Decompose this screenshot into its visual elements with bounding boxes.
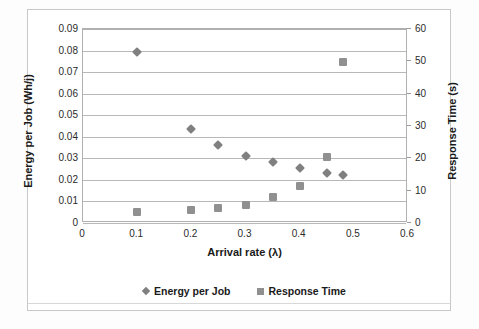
data-point xyxy=(339,58,347,66)
data-point xyxy=(338,170,348,180)
y-axis-right-tickmark xyxy=(407,125,411,126)
data-point xyxy=(269,193,277,201)
y-axis-left-tick-label: 0.03 xyxy=(59,152,78,163)
legend-diamond-icon xyxy=(142,287,150,295)
x-axis-tick-label: 0.3 xyxy=(238,228,252,239)
y-axis-right-title: Response Time (s) xyxy=(446,41,458,221)
y-axis-right-tick-label: 10 xyxy=(415,184,426,195)
data-point xyxy=(133,208,141,216)
data-point xyxy=(213,140,223,150)
y-axis-left-tick-label: 0.09 xyxy=(59,23,78,34)
y-axis-left-tick-label: 0 xyxy=(72,217,78,228)
y-axis-left-tick-label: 0.06 xyxy=(59,87,78,98)
y-axis-right-ticks: 0102030405060 xyxy=(415,0,445,329)
x-axis-tick-label: 0.4 xyxy=(292,228,306,239)
chart-figure: Energy per Job (Wh/j) Response Time (s) … xyxy=(0,0,479,329)
data-point xyxy=(187,206,195,214)
y-axis-right-tick-label: 0 xyxy=(415,217,421,228)
gridline xyxy=(83,29,406,30)
y-axis-left-tick-label: 0.05 xyxy=(59,109,78,120)
y-axis-right-tickmark xyxy=(407,28,411,29)
gridline xyxy=(83,115,406,116)
gridline xyxy=(83,137,406,138)
y-axis-right-tickmark xyxy=(407,60,411,61)
data-point xyxy=(214,204,222,212)
y-axis-right-tickmark xyxy=(407,93,411,94)
gridline xyxy=(83,223,406,224)
data-point xyxy=(296,182,304,190)
x-axis-tick-label: 0.1 xyxy=(129,228,143,239)
legend-entry[interactable]: Energy per Job xyxy=(143,285,230,297)
data-point xyxy=(132,47,142,57)
y-axis-left-tick-label: 0.07 xyxy=(59,66,78,77)
x-axis-tick-label: 0.6 xyxy=(400,228,414,239)
y-axis-left-ticks: 00.010.020.030.040.050.060.070.080.09 xyxy=(40,0,78,329)
y-axis-left-tick-label: 0.04 xyxy=(59,130,78,141)
y-axis-right-tick-label: 50 xyxy=(415,55,426,66)
gridline xyxy=(83,180,406,181)
plot-area xyxy=(82,28,407,222)
y-axis-right-tick-label: 60 xyxy=(415,23,426,34)
chart-legend: Energy per JobResponse Time xyxy=(82,285,407,297)
gridline xyxy=(83,94,406,95)
y-axis-right-tickmark xyxy=(407,222,411,223)
legend-label: Response Time xyxy=(269,285,346,297)
y-axis-right-tickmark xyxy=(407,190,411,191)
gridline xyxy=(83,72,406,73)
data-point xyxy=(323,153,331,161)
x-axis-tick-label: 0 xyxy=(79,228,85,239)
data-point xyxy=(322,168,332,178)
y-axis-left-tick-label: 0.02 xyxy=(59,173,78,184)
legend-divider xyxy=(28,303,450,304)
y-axis-right-tickmark xyxy=(407,157,411,158)
data-point xyxy=(242,201,250,209)
data-point xyxy=(186,124,196,134)
y-axis-right-tick-label: 30 xyxy=(415,120,426,131)
y-axis-left-tick-label: 0.08 xyxy=(59,44,78,55)
legend-label: Energy per Job xyxy=(154,285,230,297)
x-axis-tick-label: 0.5 xyxy=(346,228,360,239)
y-axis-left-tick-label: 0.01 xyxy=(59,195,78,206)
legend-square-icon xyxy=(257,288,264,295)
y-axis-right-tick-label: 20 xyxy=(415,152,426,163)
x-axis-title: Arrival rate (λ) xyxy=(82,246,407,258)
data-point xyxy=(295,164,305,174)
y-axis-right-tick-label: 40 xyxy=(415,87,426,98)
legend-entry[interactable]: Response Time xyxy=(257,285,346,297)
y-axis-left-title: Energy per Job (Wh/j) xyxy=(22,41,34,221)
x-axis-tick-label: 0.2 xyxy=(183,228,197,239)
